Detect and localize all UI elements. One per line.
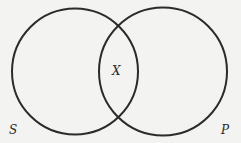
label-p: P [221, 124, 229, 136]
intersection-mark: X [112, 65, 121, 77]
label-s: S [9, 124, 17, 136]
